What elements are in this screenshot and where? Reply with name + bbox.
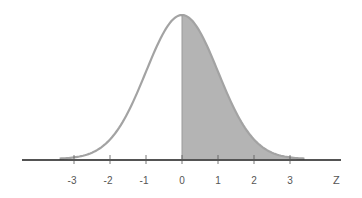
x-tick-label: 3 <box>287 175 293 186</box>
normal-distribution-chart: -3-2-10123 Z <box>0 0 362 198</box>
x-axis-label: Z <box>333 174 340 186</box>
x-tick-label: -2 <box>104 175 113 186</box>
x-tick-label: 1 <box>215 175 221 186</box>
x-tick-label: 2 <box>251 175 257 186</box>
x-tick-label: -1 <box>140 175 149 186</box>
shaded-area-right-of-zero <box>182 15 304 159</box>
x-tick-label: 0 <box>179 175 185 186</box>
x-tick-label: -3 <box>68 175 77 186</box>
